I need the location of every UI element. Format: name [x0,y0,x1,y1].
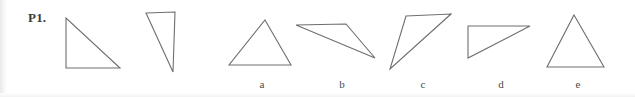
shape-label-a: a [254,79,270,90]
option-d [468,26,530,58]
shape-label-e: e [570,79,586,90]
option-a [229,20,291,65]
option-b [296,24,375,58]
figure-container: P1. abcde [0,0,635,97]
shape-label-b: b [334,79,350,90]
shape-label-c: c [415,79,431,90]
reference-triangle-1 [66,18,120,68]
option-e [547,15,604,67]
reference-triangle-2 [146,12,175,72]
option-c [390,14,451,69]
shape-label-d: d [493,79,509,90]
triangle-shape-group [66,12,604,72]
triangles-figure [0,0,635,97]
